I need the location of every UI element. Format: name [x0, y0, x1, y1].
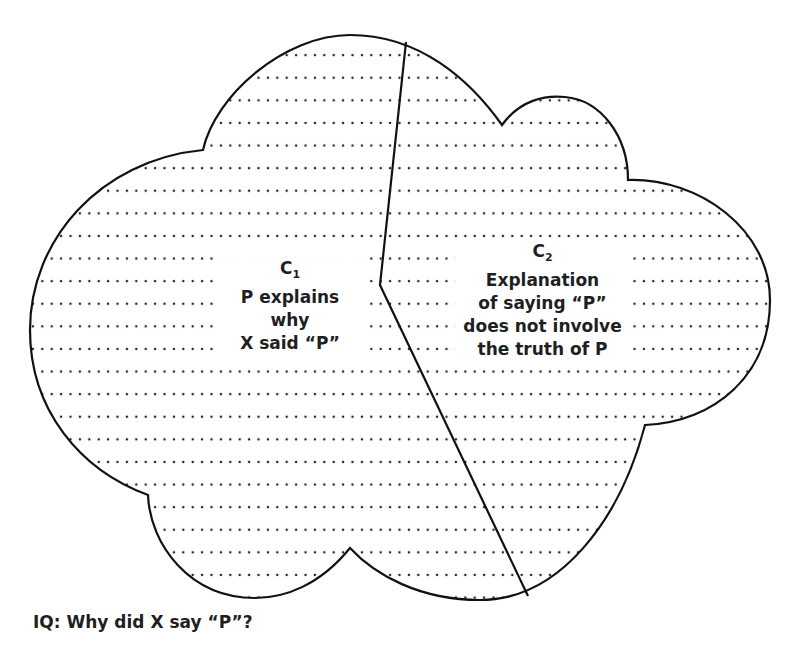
caption-iq: IQ: Why did X say “P”?	[33, 612, 253, 632]
region-c1-line: X said “P”	[215, 332, 365, 355]
dotted-fill	[0, 0, 791, 648]
region-c1-label: C1 P explains why X said “P”	[215, 257, 365, 355]
cloud-diagram	[0, 0, 791, 648]
region-c1-line: P explains	[215, 286, 365, 309]
region-c2-line: does not involve	[455, 315, 630, 338]
region-c2-line: of saying “P”	[455, 292, 630, 315]
region-c2-line: the truth of P	[455, 338, 630, 361]
region-c2-line: Explanation	[455, 269, 630, 292]
region-c1-line: why	[215, 309, 365, 332]
region-c1-title: C1	[215, 257, 365, 286]
region-c2-title: C2	[455, 240, 630, 269]
region-c2-label: C2 Explanation of saying “P” does not in…	[455, 240, 630, 361]
